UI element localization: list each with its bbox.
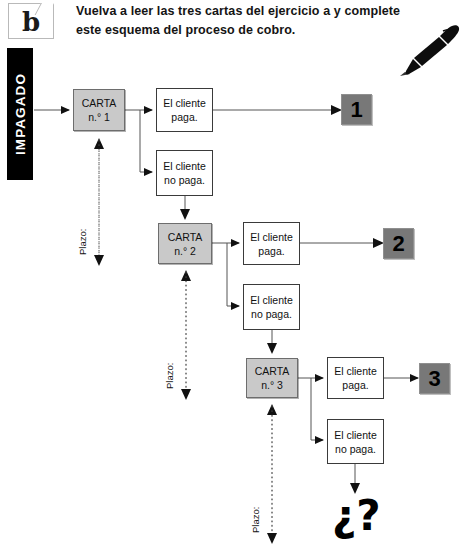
logo-letter: b	[9, 8, 53, 36]
unknown-outcome: ¿?	[332, 495, 381, 537]
impagado-banner-label: IMPAGADO	[13, 73, 28, 155]
pays-node-2[interactable]: El cliente paga.	[243, 222, 300, 265]
deadline-label-1: Plazo:	[77, 229, 88, 255]
letter-node-3[interactable]: CARTA n.° 3	[246, 358, 298, 398]
impagado-banner: IMPAGADO	[7, 48, 33, 180]
fountain-pen-icon	[396, 22, 462, 76]
deadline-label-3: Plazo:	[250, 507, 261, 533]
letter-node-1-number: n.° 1	[88, 110, 110, 124]
not-pays-node-3[interactable]: El cliente no paga.	[327, 419, 384, 464]
page-instruction: Vuelva a leer las tres cartas del ejerci…	[76, 2, 416, 40]
pays-node-1[interactable]: El cliente paga.	[156, 88, 213, 132]
letter-node-1[interactable]: CARTA n.° 1	[73, 89, 125, 131]
letter-node-1-title: CARTA	[82, 96, 117, 110]
result-node-2[interactable]: 2	[383, 228, 414, 259]
deadline-label-2: Plazo:	[164, 363, 175, 389]
flow-connectors	[0, 0, 466, 547]
pays-node-3[interactable]: El cliente paga.	[327, 357, 384, 399]
letter-node-2-title: CARTA	[168, 230, 203, 244]
not-pays-node-2[interactable]: El cliente no paga.	[243, 284, 300, 330]
result-node-1[interactable]: 1	[341, 94, 372, 125]
result-node-3[interactable]: 3	[419, 363, 450, 394]
letter-node-3-number: n.° 3	[261, 378, 283, 392]
letter-node-3-title: CARTA	[255, 364, 290, 378]
worksheet-page: b Vuelva a leer las tres cartas del ejer…	[0, 0, 466, 547]
section-logo-icon: b	[8, 3, 54, 39]
not-pays-node-1[interactable]: El cliente no paga.	[156, 150, 213, 196]
letter-node-2-number: n.° 2	[174, 244, 196, 258]
letter-node-2[interactable]: CARTA n.° 2	[158, 223, 212, 264]
